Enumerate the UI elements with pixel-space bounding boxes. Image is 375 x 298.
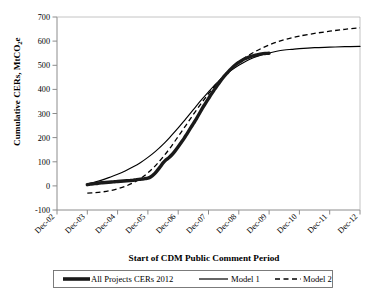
- legend-label: Model 1: [231, 274, 260, 284]
- legend-label: Model 2: [303, 274, 332, 284]
- y-tick-label: 0: [46, 182, 50, 191]
- cumulative-cers-line-chart: 700 600 500 400 300 200 100 0 -100 De: [0, 0, 375, 298]
- y-axis-title: Cumulative CERs, MtCO2e: [12, 37, 23, 146]
- y-tick-label: 700: [38, 13, 50, 22]
- y-tick-label: 200: [38, 134, 50, 143]
- y-tick-label: 300: [38, 110, 50, 119]
- chart-figure: 700 600 500 400 300 200 100 0 -100 De: [0, 0, 375, 298]
- x-axis-title: Start of CDM Public Comment Period: [129, 253, 280, 263]
- y-tick-label: 500: [38, 61, 50, 70]
- legend-label: All Projects CERs 2012: [91, 274, 173, 284]
- chart-legend: All Projects CERs 2012 Model 1 Model 2: [54, 271, 333, 288]
- y-tick-label: 600: [38, 37, 50, 46]
- y-tick-label: 100: [38, 158, 50, 167]
- y-tick-label: 400: [38, 85, 50, 94]
